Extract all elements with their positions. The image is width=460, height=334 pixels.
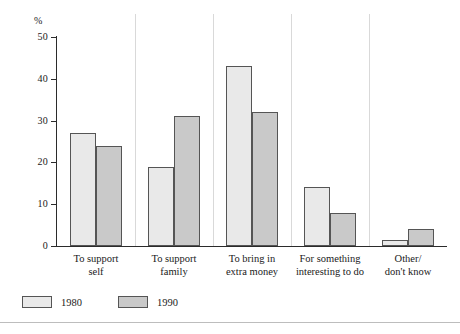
bar-1980-1 — [148, 167, 174, 246]
y-axis-tick-label: 40 — [20, 74, 48, 84]
y-axis-tick-label: 30 — [20, 116, 48, 126]
bar-1990-3 — [330, 213, 356, 246]
y-axis-tick-label: 20 — [20, 157, 48, 167]
bar-1990-2 — [252, 112, 278, 246]
bar-1980-2 — [226, 66, 252, 246]
bar-1990-1 — [174, 116, 200, 246]
bar-chart-figure: % 01020304050 To supportselfTo supportfa… — [0, 0, 460, 334]
legend-item-1980: 1980 — [22, 296, 82, 308]
bar-1980-0 — [70, 133, 96, 246]
y-axis-tick-label: 10 — [20, 199, 48, 209]
light-gray-swatch — [22, 296, 52, 308]
x-axis-line — [56, 246, 447, 247]
category-label-4: Other/don't know — [361, 252, 455, 278]
y-axis-tick-label: 0 — [20, 241, 48, 251]
medium-gray-swatch — [118, 296, 148, 308]
bar-1980-3 — [304, 187, 330, 246]
bar-1990-0 — [96, 146, 122, 246]
category-label-line: don't know — [361, 265, 455, 278]
legend-label: 1990 — [157, 297, 178, 308]
y-axis-tick — [51, 246, 57, 247]
legend-label: 1980 — [61, 297, 82, 308]
chart-legend: 19801990 — [22, 296, 214, 308]
y-axis-tick-label: 50 — [20, 32, 48, 42]
legend-item-1990: 1990 — [118, 296, 178, 308]
bottom-divider — [0, 322, 460, 323]
y-axis-unit-label: % — [34, 16, 42, 26]
category-label-line: Other/ — [361, 252, 455, 265]
bar-1990-4 — [408, 229, 434, 246]
bars-layer — [57, 37, 447, 246]
bar-1980-4 — [382, 240, 408, 246]
